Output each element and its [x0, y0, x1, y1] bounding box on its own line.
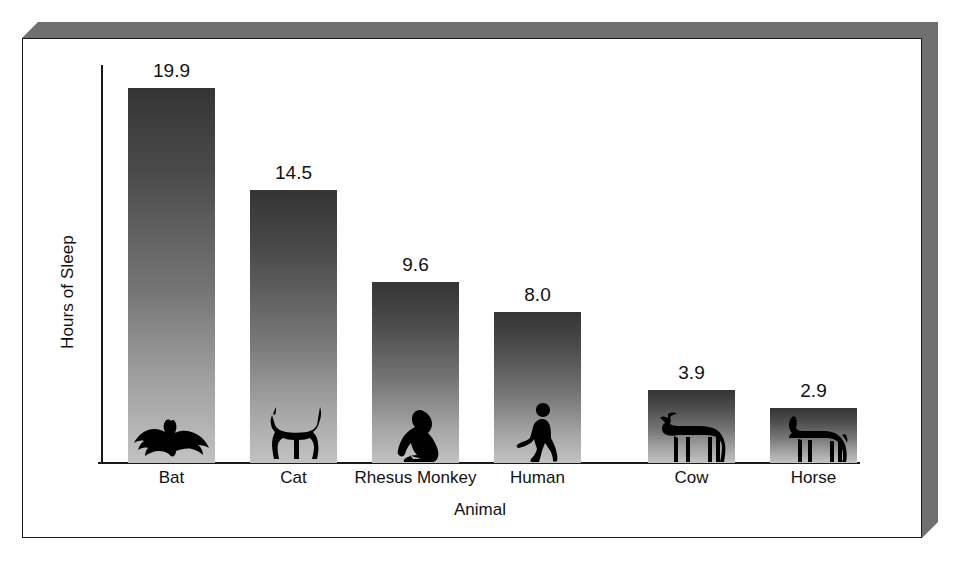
- chart-panel: [22, 38, 922, 538]
- chart-screenshot: Hours of Sleep Animal 19.9 14.5 9.6: [0, 0, 960, 577]
- frame-bevel-top: [22, 22, 938, 38]
- frame-bevel-right: [922, 22, 938, 538]
